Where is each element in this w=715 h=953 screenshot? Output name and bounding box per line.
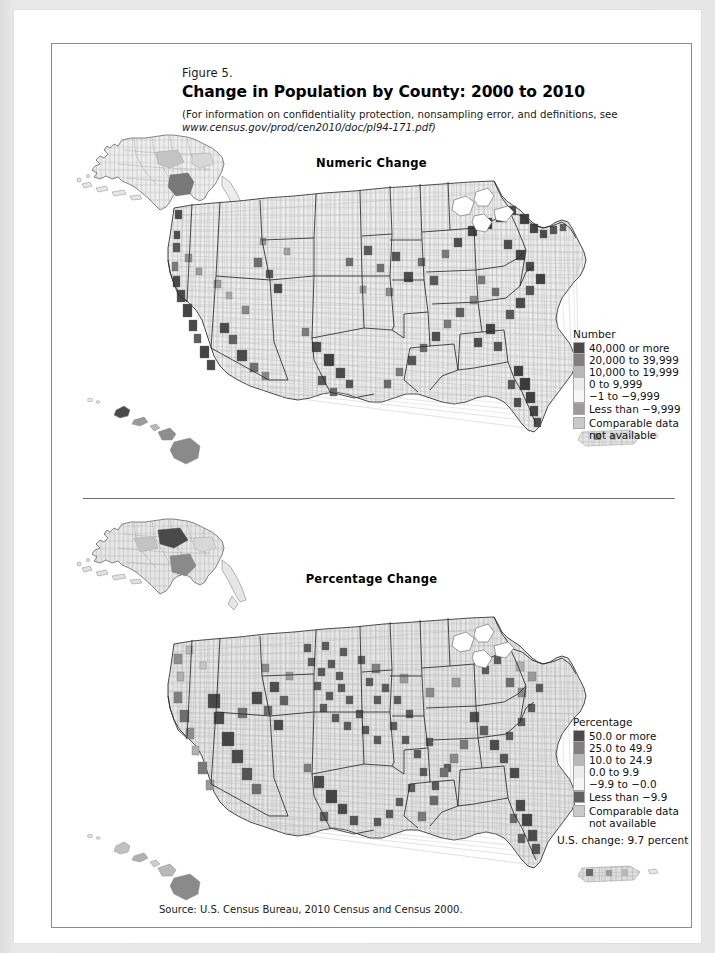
legend-swatch (573, 403, 585, 415)
legend-label: Less than −9.9 (589, 791, 667, 803)
legend-swatch (573, 730, 585, 742)
legend-swatch (573, 754, 585, 766)
legend-label: Comparable data (589, 417, 679, 429)
legend-row: Less than −9.9 (573, 791, 679, 803)
legend-row: 40,000 or more (573, 342, 681, 354)
legend-row: Less than −9,999 (573, 403, 681, 415)
legend-percentage: Percentage 50.0 or more 25.0 to 49.9 10.… (573, 716, 679, 829)
legend-row: −1 to −9,999 (573, 390, 681, 402)
legend-label: −1 to −9,999 (589, 390, 660, 402)
legend-swatch (573, 378, 585, 390)
map-geometry-numeric (77, 135, 658, 464)
us-change-note: U.S. change: 9.7 percent (557, 834, 688, 846)
legend-row: 0.0 to 9.9 (573, 766, 679, 778)
legend-swatch (573, 366, 585, 378)
legend-numeric-rows: 40,000 or more 20,000 to 39,999 10,000 t… (573, 342, 681, 441)
legend-label-not-available-line2: not available (573, 429, 681, 441)
lower-48-percentage (168, 617, 586, 868)
legend-swatch (573, 766, 585, 778)
legend-row-not-available: Comparable data (573, 805, 679, 817)
legend-row: 20,000 to 39,999 (573, 354, 681, 366)
legend-swatch (573, 742, 585, 754)
legend-swatch (573, 390, 585, 402)
legend-numeric: Number 40,000 or more 20,000 to 39,999 1… (573, 328, 681, 441)
legend-label: Comparable data (589, 805, 679, 817)
figure-number: Figure 5. (182, 66, 652, 81)
legend-row: 0 to 9,999 (573, 378, 681, 390)
legend-row: 25.0 to 49.9 (573, 742, 679, 754)
legend-swatch (573, 791, 585, 803)
legend-label: 0 to 9,999 (589, 378, 642, 390)
legend-percentage-rows: 50.0 or more 25.0 to 49.9 10.0 to 24.9 0… (573, 730, 679, 829)
legend-swatch (573, 354, 585, 366)
legend-label: 20,000 to 39,999 (589, 354, 679, 366)
legend-label: 0.0 to 9.9 (589, 766, 639, 778)
legend-label: −9.9 to −0.0 (589, 778, 657, 790)
figure-frame: Figure 5. Change in Population by County… (51, 43, 692, 928)
legend-row: 10.0 to 24.9 (573, 754, 679, 766)
document-page: Figure 5. Change in Population by County… (14, 10, 701, 943)
hawaii-inset-numeric (87, 398, 200, 464)
lower-48-numeric (166, 178, 594, 432)
map-percentage-change (74, 496, 674, 916)
legend-row: −9.9 to −0.0 (573, 778, 679, 790)
legend-label: 10.0 to 24.9 (589, 754, 652, 766)
legend-label-not-available-line2: not available (573, 817, 679, 829)
legend-numeric-title: Number (573, 328, 681, 340)
hawaii-inset-percentage (87, 834, 200, 900)
legend-swatch (573, 342, 585, 354)
legend-label: 40,000 or more (589, 342, 670, 354)
alaska-inset-percentage (77, 519, 246, 610)
legend-swatch (573, 805, 585, 817)
map-percentage-svg (74, 496, 674, 916)
legend-row: 10,000 to 19,999 (573, 366, 681, 378)
legend-row-not-available: Comparable data (573, 417, 681, 429)
legend-swatch (573, 778, 585, 790)
source-note: Source: U.S. Census Bureau, 2010 Census … (159, 904, 463, 915)
legend-label: 25.0 to 49.9 (589, 742, 652, 754)
legend-swatch (573, 417, 585, 429)
legend-percentage-title: Percentage (573, 716, 679, 728)
legend-label: 50.0 or more (589, 730, 656, 742)
legend-label: 10,000 to 19,999 (589, 366, 679, 378)
legend-row: 50.0 or more (573, 730, 679, 742)
legend-label: Less than −9,999 (589, 403, 681, 415)
puerto-rico-inset-percentage (578, 866, 658, 882)
